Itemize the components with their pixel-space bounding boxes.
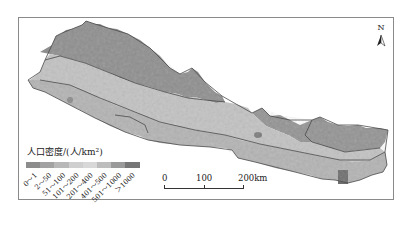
legend-swatch-6 (111, 162, 125, 168)
north-arrow: N (374, 24, 388, 51)
legend-swatch-7 (125, 162, 139, 168)
scale-bar (164, 188, 244, 189)
scale-label-200: 200km (238, 173, 267, 183)
legend-title: 人口密度/(人/km²) (27, 145, 103, 158)
scale-tick (243, 185, 244, 188)
legend-labels: 0～1 2～50 51～100 101～200 201～400 401～500 … (20, 170, 150, 198)
scale-tick (204, 185, 205, 188)
scale-label-0: 0 (162, 173, 167, 183)
legend-color-bar (26, 162, 140, 168)
legend-swatch-5 (97, 162, 111, 168)
legend-swatch-1 (40, 162, 54, 168)
legend-swatch-0 (26, 162, 40, 168)
legend-swatch-4 (83, 162, 97, 168)
legend-swatch-2 (54, 162, 68, 168)
north-arrow-icon (376, 35, 386, 47)
legend-swatch-3 (69, 162, 83, 168)
scale-label-100: 100 (196, 173, 212, 183)
north-label: N (374, 24, 388, 32)
scale-tick (164, 185, 165, 188)
